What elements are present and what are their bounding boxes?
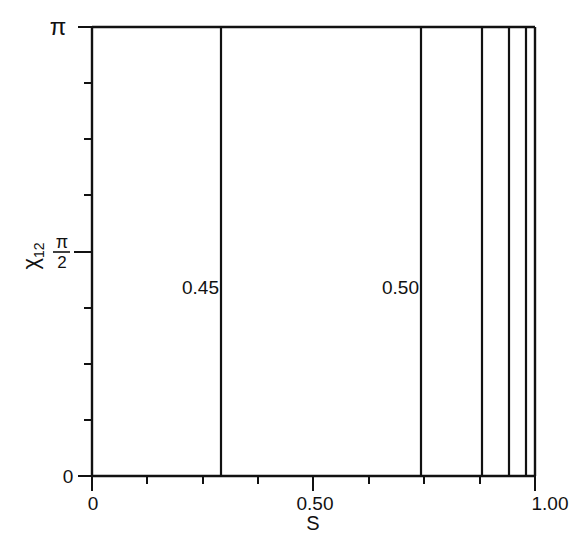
y-tick-label-zero: 0 [63, 466, 74, 487]
svg-text:χ12: χ12 [18, 242, 47, 269]
contour-label-045: 0.45 [182, 277, 219, 298]
x-tick-label-one: 1.00 [532, 493, 569, 514]
contour-chart: 0.45 0.50 π π 2 0 0 0.50 1.00 S χ12 [0, 0, 583, 553]
contour-lines [221, 27, 526, 476]
x-axis-title: S [306, 512, 319, 534]
y-tick-label-half-pi: π 2 [53, 232, 70, 272]
y-tick-label-pi: π [50, 13, 67, 40]
svg-text:π: π [56, 232, 68, 252]
x-axis-ticks [92, 476, 535, 491]
y-axis-title: χ12 [18, 242, 47, 269]
x-tick-label-zero: 0 [88, 493, 99, 514]
y-axis-ticks [74, 27, 92, 476]
x-tick-label-half: 0.50 [297, 493, 334, 514]
contour-label-050: 0.50 [382, 277, 419, 298]
svg-text:2: 2 [57, 253, 66, 272]
plot-frame [92, 27, 535, 476]
